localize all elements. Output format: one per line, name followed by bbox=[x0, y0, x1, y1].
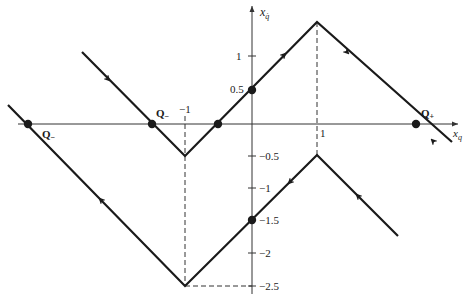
svg-text:−2: −2 bbox=[259, 247, 271, 259]
arrow-icon bbox=[358, 196, 369, 207]
y-axis bbox=[250, 6, 255, 294]
arrow-icon bbox=[97, 68, 108, 79]
lower-trajectory bbox=[8, 105, 398, 286]
svg-text:−1: −1 bbox=[259, 182, 271, 194]
guide-lines bbox=[185, 22, 317, 286]
svg-text:0.5: 0.5 bbox=[230, 83, 244, 95]
point-y-minus1.5 bbox=[248, 216, 256, 224]
upper-trajectory bbox=[82, 22, 452, 156]
svg-text:1: 1 bbox=[320, 127, 326, 139]
svg-text:−1.5: −1.5 bbox=[259, 214, 279, 226]
arrow-icon bbox=[272, 55, 284, 67]
point-q-minus-outer bbox=[24, 120, 32, 128]
svg-text:xq̇: xq̇ bbox=[259, 5, 269, 21]
equilibrium-points bbox=[24, 86, 420, 224]
point-x-crossing bbox=[214, 120, 222, 128]
point-y-0.5 bbox=[248, 86, 256, 94]
svg-text:Q−: Q− bbox=[156, 107, 170, 121]
svg-text:xq: xq bbox=[452, 127, 462, 142]
point-q-plus bbox=[412, 120, 420, 128]
phase-portrait-diagram: xq̇ xq −1 1 1 0.5 −0.5 −1 −1.5 −2 −2.5 Q… bbox=[0, 0, 470, 301]
svg-text:Q+: Q+ bbox=[421, 107, 435, 121]
svg-text:1: 1 bbox=[236, 50, 242, 62]
arrow-icon bbox=[101, 200, 112, 211]
x-axis bbox=[18, 122, 458, 127]
svg-text:Q−: Q− bbox=[42, 128, 56, 142]
svg-text:−2.5: −2.5 bbox=[259, 280, 279, 292]
arrow-icon bbox=[433, 141, 444, 152]
point-q-minus-inner bbox=[148, 120, 156, 128]
svg-text:−1: −1 bbox=[179, 103, 191, 115]
arrow-icon bbox=[290, 171, 301, 182]
svg-text:−0.5: −0.5 bbox=[259, 150, 279, 162]
axis-labels: xq̇ xq bbox=[259, 5, 462, 142]
